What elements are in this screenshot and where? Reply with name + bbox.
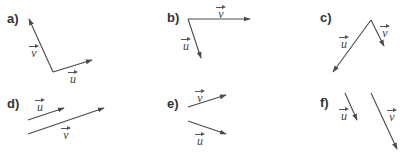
vector-name: u bbox=[183, 39, 189, 53]
panel-label-d: d) bbox=[7, 97, 19, 110]
vector-arrow-icon bbox=[29, 44, 39, 48]
vector-label-d-v: v bbox=[61, 126, 71, 141]
panel-label-e: e) bbox=[167, 97, 179, 110]
vector-arrow-icon bbox=[35, 98, 45, 102]
vector-label-a-u: u bbox=[68, 70, 78, 85]
panel-label-a: a) bbox=[7, 12, 19, 25]
panel-label-f: f) bbox=[320, 96, 329, 109]
vector-d-u bbox=[28, 108, 64, 120]
vector-arrow-icon bbox=[339, 35, 349, 39]
vector-label-f-v: v bbox=[387, 108, 397, 123]
vector-arrow-icon bbox=[387, 108, 397, 112]
vector-name: u bbox=[197, 134, 203, 148]
vector-label-b-u: u bbox=[181, 37, 191, 52]
vector-label-d-u: u bbox=[35, 98, 45, 113]
vector-label-e-u: u bbox=[195, 132, 205, 147]
vector-name: u bbox=[341, 37, 347, 51]
vector-name: v bbox=[31, 46, 36, 60]
vector-arrow-icon bbox=[61, 126, 71, 130]
vector-arrow-icon bbox=[339, 107, 349, 111]
vector-e-u bbox=[188, 121, 226, 134]
vector-arrow-icon bbox=[195, 89, 205, 93]
vector-arrow-icon bbox=[195, 132, 205, 136]
vector-name: v bbox=[197, 91, 202, 105]
vector-name: u bbox=[341, 109, 347, 123]
vector-name: u bbox=[37, 100, 43, 114]
vector-e-v bbox=[188, 95, 226, 107]
vector-label-c-u: u bbox=[339, 35, 349, 50]
vector-name: v bbox=[389, 110, 394, 124]
vector-label-c-v: v bbox=[380, 24, 390, 39]
vector-arrow-icon bbox=[216, 5, 226, 9]
vector-label-f-u: u bbox=[339, 107, 349, 122]
vector-arrow-icon bbox=[68, 70, 78, 74]
vector-name: u bbox=[70, 72, 76, 86]
vector-name: v bbox=[218, 7, 223, 21]
vector-label-b-v: v bbox=[216, 5, 226, 20]
vector-arrow-icon bbox=[181, 37, 191, 41]
panel-label-b: b) bbox=[167, 11, 179, 24]
panel-label-c: c) bbox=[320, 11, 332, 24]
vector-arrow-icon bbox=[380, 24, 390, 28]
vector-name: v bbox=[63, 128, 68, 142]
vector-label-a-v: v bbox=[29, 44, 39, 59]
vector-label-e-v: v bbox=[195, 89, 205, 104]
vector-name: v bbox=[382, 26, 387, 40]
